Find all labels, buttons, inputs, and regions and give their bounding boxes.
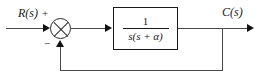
input-arrowhead-icon: [43, 24, 50, 32]
transfer-function-expression: 1 s(s + α): [123, 16, 169, 42]
output-arrowhead-icon: [247, 24, 254, 32]
transfer-function-block: 1 s(s + α): [113, 7, 178, 50]
feedback-return-vertical-wire: [60, 46, 61, 70]
feedback-branch-vertical-wire: [222, 28, 223, 70]
block-diagram-canvas: R(s) + − 1 s(s + α) C(s): [0, 0, 270, 82]
output-signal-label: C(s): [222, 5, 243, 20]
summing-junction-plus-sign: +: [42, 8, 48, 19]
summing-junction-minus-sign: −: [44, 38, 50, 49]
input-wire: [6, 28, 44, 29]
plant-input-arrowhead-icon: [105, 24, 112, 32]
transfer-function-numerator: 1: [138, 16, 154, 28]
input-signal-label: R(s): [18, 6, 38, 21]
transfer-function-denominator: s(s + α): [124, 29, 167, 42]
output-wire: [178, 28, 248, 29]
feedback-arrowhead-icon: [56, 40, 64, 47]
feedback-horizontal-wire: [60, 70, 223, 71]
error-signal-wire: [71, 28, 106, 29]
